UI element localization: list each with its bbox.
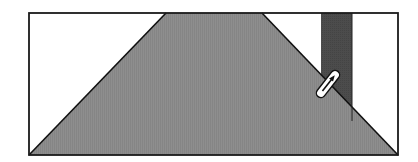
diagram-svg: [0, 0, 418, 162]
diagram-canvas: [0, 0, 418, 162]
